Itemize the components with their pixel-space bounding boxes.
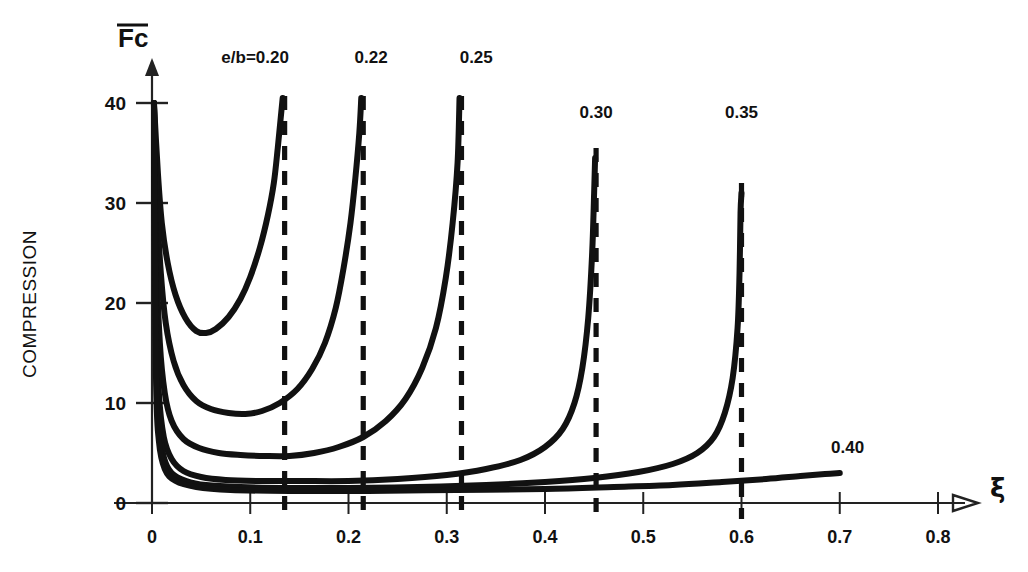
x-axis-tick-label: 0.1 <box>238 527 263 547</box>
x-axis-tick-label: 0.8 <box>925 527 950 547</box>
x-axis-tick-label: 0 <box>147 527 157 547</box>
x-axis-symbol-label: ξ <box>990 473 1005 503</box>
y-axis-tick-label: 40 <box>105 93 126 114</box>
x-axis-tick-label: 0.6 <box>729 527 754 547</box>
y-axis-symbol-label: Fc <box>118 23 148 53</box>
compression-chart: 01020304000.10.20.30.40.50.60.70.8 e/b=0… <box>0 0 1028 572</box>
y-axis-tick-label: 30 <box>105 193 126 214</box>
x-axis-tick-label: 0.4 <box>532 527 557 547</box>
curve-label: 0.40 <box>831 438 864 457</box>
y-axis-tick-label: 20 <box>105 293 126 314</box>
y-axis-tick-label: 10 <box>105 393 126 414</box>
curve-label: 0.30 <box>580 103 613 122</box>
x-axis-tick-label: 0.7 <box>827 527 852 547</box>
y-axis-title: COMPRESSION <box>19 230 40 378</box>
y-axis-tick-label: 0 <box>115 493 126 514</box>
x-axis-tick-label: 0.5 <box>631 527 656 547</box>
x-axis-tick-label: 0.3 <box>434 527 459 547</box>
curve-label: e/b=0.20 <box>221 48 289 67</box>
curve-label: 0.35 <box>725 103 758 122</box>
x-axis-tick-label: 0.2 <box>336 527 361 547</box>
curve-label: 0.25 <box>460 48 493 67</box>
chart-figure: 01020304000.10.20.30.40.50.60.70.8 e/b=0… <box>0 0 1028 572</box>
curve-label: 0.22 <box>355 48 388 67</box>
